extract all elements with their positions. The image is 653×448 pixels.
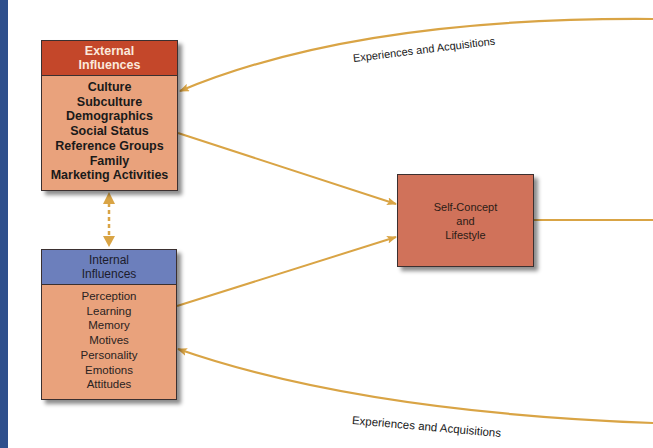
list-item: Culture	[88, 80, 132, 95]
internal-title-line1: Internal	[89, 253, 129, 268]
list-item: Social Status	[70, 124, 149, 139]
list-item: Marketing Activities	[51, 168, 169, 183]
list-item: Emotions	[85, 363, 133, 378]
external-influences-box: External Influences Culture Subculture D…	[41, 40, 178, 191]
bottom-feedback-curve	[178, 349, 653, 423]
external-title-line2: Influences	[79, 58, 141, 73]
center-line1: Self-Concept	[434, 200, 498, 214]
center-line2: and	[456, 214, 474, 228]
internal-influences-box: Internal Influences Perception Learning …	[41, 249, 177, 400]
internal-to-self-arrow	[177, 237, 396, 306]
list-item: Subculture	[77, 95, 142, 110]
external-to-self-arrow	[178, 133, 396, 204]
list-item: Memory	[88, 318, 130, 333]
list-item: Motives	[89, 333, 129, 348]
self-concept-lifestyle-box: Self-Concept and Lifestyle	[397, 174, 534, 267]
list-item: Reference Groups	[55, 139, 163, 154]
list-item: Attitudes	[87, 377, 132, 392]
list-item: Perception	[82, 289, 137, 304]
internal-title-line2: Influences	[82, 267, 137, 282]
external-influences-header: External Influences	[42, 41, 177, 76]
list-item: Personality	[81, 348, 138, 363]
list-item: Demographics	[66, 109, 153, 124]
external-title-line1: External	[85, 44, 134, 59]
list-item: Learning	[87, 304, 132, 319]
list-item: Family	[90, 154, 130, 169]
external-influences-list: Culture Subculture Demographics Social S…	[42, 76, 177, 183]
center-line3: Lifestyle	[445, 228, 485, 242]
internal-influences-header: Internal Influences	[42, 250, 176, 285]
internal-influences-list: Perception Learning Memory Motives Perso…	[42, 285, 176, 392]
